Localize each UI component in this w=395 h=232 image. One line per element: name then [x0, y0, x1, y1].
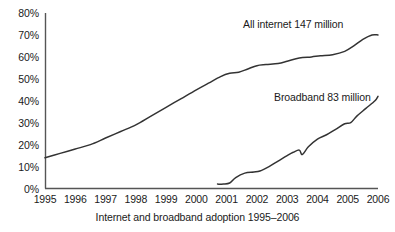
y-tick-label: 60% — [3, 52, 39, 63]
series-line-broadband — [218, 96, 378, 184]
y-tick-label: 50% — [3, 74, 39, 85]
x-tick-label: 2006 — [367, 194, 390, 205]
y-tick-label: 80% — [3, 8, 39, 19]
x-tick-label: 1999 — [155, 194, 178, 205]
x-tick-label: 2005 — [336, 194, 359, 205]
x-tick-label: 2000 — [185, 194, 208, 205]
y-tick-label: 70% — [3, 30, 39, 41]
x-tick-label: 1998 — [125, 194, 148, 205]
x-tick-label: 2004 — [306, 194, 329, 205]
x-tick-label: 1996 — [64, 194, 87, 205]
y-tick-label: 10% — [3, 162, 39, 173]
x-tick-label: 2002 — [246, 194, 269, 205]
y-tick-label: 30% — [3, 118, 39, 129]
annotation-broadband: Broadband 83 million — [274, 92, 371, 103]
x-tick-label: 1995 — [34, 194, 57, 205]
x-tick-label: 2003 — [276, 194, 299, 205]
x-tick-label: 1997 — [94, 194, 117, 205]
chart-container: 0%10%20%30%40%50%60%70%80% 1995199619971… — [0, 0, 395, 232]
y-tick-label: 40% — [3, 96, 39, 107]
chart-caption: Internet and broadband adoption 1995–200… — [0, 212, 395, 223]
annotation-all-internet: All internet 147 million — [243, 19, 343, 30]
x-tick-label: 2001 — [215, 194, 238, 205]
y-tick-label: 20% — [3, 140, 39, 151]
